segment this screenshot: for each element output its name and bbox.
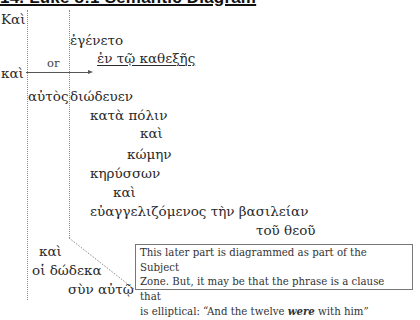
word-kai-second: καὶ [1,65,24,81]
word-kai-fourth: καὶ [113,184,136,200]
note-emphasis: were [288,305,315,317]
word-komen: κώμην [127,146,172,162]
note-line-1: This later part is diagrammed as part of… [140,246,408,275]
word-tou-theou: τοῦ θεοῦ [256,222,316,238]
word-kai-third: καὶ [140,125,163,141]
annotation-note: This later part is diagrammed as part of… [135,244,413,290]
word-egeneto: ἐγένετο [70,32,123,48]
word-kai-initial: Καὶ [1,11,26,27]
word-euangelizomenos: εὐαγγελιζόμενος τὴν βασιλείαν [90,203,308,219]
arrow-head-icon [88,70,93,74]
word-kata-polin: κατὰ πόλιν [90,107,168,123]
note-line-2: Zone. But, it may be that the phrase is … [140,275,408,304]
word-kai-fifth: καὶ [39,243,62,259]
word-diodeuen: διώδευεν [70,88,133,104]
note-line-3-suffix: with him” [315,306,369,317]
word-syn-auto: σὺν αὐτῷ [68,281,134,297]
word-hoi-dodeka: οἱ δώδεκα [32,262,102,278]
or-label: or [47,56,59,70]
alternative-arrow-line [26,72,88,73]
word-kerysson: κηρύσσων [90,165,160,181]
note-line-3-prefix: is elliptical: “And the twelve [140,306,288,317]
word-autos: αὐτὸς [28,88,68,104]
word-en-to-kathexes: ἐν τῷ καθεξῆς [97,50,195,66]
note-line-3: is elliptical: “And the twelve were with… [140,304,408,320]
